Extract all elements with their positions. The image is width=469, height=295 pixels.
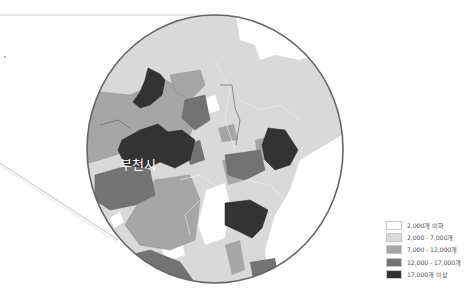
legend: 2,000개 이하 2,000 - 7,000개 7,000 - 12,000개… (386, 219, 461, 281)
legend-item: 2,000개 이하 (386, 219, 461, 231)
legend-item: 2,000 - 7,000개 (386, 231, 461, 243)
legend-label: 12,000 - 17,000개 (407, 258, 461, 267)
legend-swatch-class5 (386, 270, 402, 279)
legend-swatch-class1 (386, 221, 402, 230)
legend-label: 2,000개 이하 (407, 221, 444, 230)
bucheon-label: 부천시 (120, 157, 156, 172)
legend-swatch-class3 (386, 245, 402, 254)
map-dot (4, 56, 6, 58)
legend-label: 2,000 - 7,000개 (407, 233, 453, 242)
legend-swatch-class4 (386, 258, 402, 267)
legend-item: 12,000 - 17,000개 (386, 256, 461, 268)
region-class4 (250, 258, 280, 290)
legend-swatch-class2 (386, 233, 402, 242)
legend-item: 7,000 - 12,000개 (386, 244, 461, 256)
map-regions (80, 10, 350, 290)
legend-label: 17,000개 이상 (407, 270, 448, 279)
legend-item: 17,000개 이상 (386, 269, 461, 281)
legend-label: 7,000 - 12,000개 (407, 245, 457, 254)
